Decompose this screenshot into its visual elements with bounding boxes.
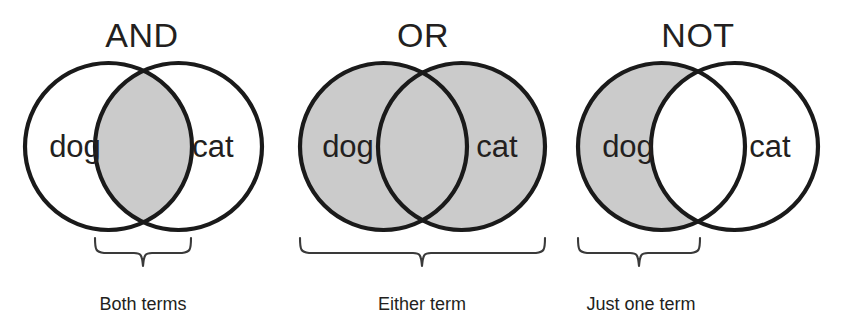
or-brace [300, 238, 545, 266]
and-left-label: dog [49, 129, 101, 164]
not-caption: Just one term [586, 294, 695, 314]
panel-or: OR dog cat Either term [300, 16, 545, 314]
panel-not: NOT dog cat Just one term [560, 16, 841, 314]
or-caption: Either term [378, 294, 466, 314]
not-right-label: cat [749, 129, 791, 164]
panel-and-title: AND [105, 16, 178, 54]
panel-or-title: OR [397, 16, 449, 54]
not-left-label: dog [602, 129, 654, 164]
venn-diagram-figure: AND dog cat Both terms OR dog cat [0, 0, 841, 331]
and-right-label: cat [192, 129, 234, 164]
venn-diagram-canvas: AND dog cat Both terms OR dog cat [0, 0, 841, 331]
or-left-label: dog [322, 129, 374, 164]
or-right-label: cat [476, 129, 518, 164]
and-brace [95, 238, 191, 266]
panel-and: AND dog cat Both terms [25, 16, 262, 314]
and-caption: Both terms [99, 294, 186, 314]
